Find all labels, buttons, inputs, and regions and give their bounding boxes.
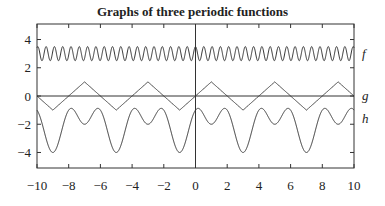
x-tick-label: 10: [348, 178, 361, 193]
x-tick-label: −10: [27, 178, 47, 193]
x-tick-label: −4: [125, 178, 139, 193]
y-tick-label: 0: [25, 89, 32, 104]
x-tick-label: 8: [319, 178, 326, 193]
x-tick-label: 6: [287, 178, 294, 193]
y-tick-label: −2: [17, 117, 31, 132]
y-tick-label: 2: [25, 60, 32, 75]
series-f-label: f: [362, 46, 368, 61]
y-tick-label: −4: [17, 145, 31, 160]
series-g-label: g: [362, 88, 369, 103]
x-tick-label: −2: [157, 178, 171, 193]
x-tick-label: 4: [256, 178, 263, 193]
x-tick-label: −6: [93, 178, 107, 193]
y-tick-label: 4: [25, 32, 32, 47]
x-tick-label: 0: [192, 178, 199, 193]
series-h-label: h: [362, 111, 369, 126]
plot-area: −10−8−6−4−20246810420−2−4fgh: [0, 0, 385, 206]
x-tick-label: 2: [224, 178, 231, 193]
x-tick-label: −8: [62, 178, 76, 193]
